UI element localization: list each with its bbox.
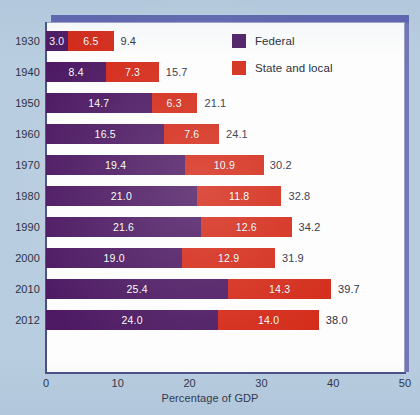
bar-segment-state-local: 11.8 — [197, 186, 282, 206]
stacked-bar: 21.011.8 — [46, 186, 282, 206]
x-tick-label: 40 — [327, 377, 339, 389]
stacked-bar: 8.47.3 — [46, 62, 159, 82]
bar-segment-state-local: 12.6 — [201, 217, 291, 237]
bar-segment-state-local: 7.6 — [164, 124, 219, 144]
stacked-bar: 19.012.9 — [46, 248, 275, 268]
x-tick-label: 30 — [255, 377, 267, 389]
year-label: 2000 — [0, 246, 40, 270]
bar-row: 19303.06.59.4 — [0, 29, 420, 53]
bar-segment-state-local: 14.0 — [218, 310, 319, 330]
bar-segment-state-local: 6.5 — [68, 31, 115, 51]
bar-total-label: 9.4 — [120, 31, 136, 51]
bar-segment-federal: 21.6 — [46, 217, 201, 237]
year-label: 1990 — [0, 215, 40, 239]
bar-total-label: 24.1 — [226, 124, 248, 144]
bar-segment-federal: 3.0 — [46, 31, 68, 51]
bar-row: 19408.47.315.7 — [0, 60, 420, 84]
bar-segment-federal: 8.4 — [46, 62, 106, 82]
bar-row: 201224.014.038.0 — [0, 308, 420, 332]
bar-segment-federal: 25.4 — [46, 279, 228, 299]
year-label: 1980 — [0, 184, 40, 208]
bar-total-label: 30.2 — [270, 155, 292, 175]
x-tick-label: 50 — [399, 377, 411, 389]
bar-row: 198021.011.832.8 — [0, 184, 420, 208]
bar-segment-federal: 16.5 — [46, 124, 164, 144]
bar-total-label: 31.9 — [282, 248, 304, 268]
bar-row: 196016.57.624.1 — [0, 122, 420, 146]
bar-total-label: 32.8 — [289, 186, 311, 206]
bar-total-label: 39.7 — [338, 279, 360, 299]
bar-row: 197019.410.930.2 — [0, 153, 420, 177]
x-tick-label: 20 — [183, 377, 195, 389]
year-label: 1970 — [0, 153, 40, 177]
bar-row: 199021.612.634.2 — [0, 215, 420, 239]
stacked-bar: 24.014.0 — [46, 310, 319, 330]
bar-total-label: 21.1 — [204, 93, 226, 113]
stacked-bar: 3.06.5 — [46, 31, 113, 51]
bar-segment-federal: 19.4 — [46, 155, 185, 175]
bar-total-label: 15.7 — [166, 62, 188, 82]
bar-row: 200019.012.931.9 — [0, 246, 420, 270]
chart-page: Federal State and local 19303.06.59.4194… — [0, 0, 420, 415]
x-axis-line — [45, 372, 406, 374]
x-tick-label: 0 — [43, 377, 49, 389]
stacked-bar: 25.414.3 — [46, 279, 331, 299]
stacked-bar: 21.612.6 — [46, 217, 292, 237]
bar-total-label: 34.2 — [299, 217, 321, 237]
year-label: 1960 — [0, 122, 40, 146]
stacked-bar: 19.410.9 — [46, 155, 263, 175]
year-label: 2012 — [0, 308, 40, 332]
bar-segment-state-local: 12.9 — [182, 248, 275, 268]
bar-segment-federal: 21.0 — [46, 186, 197, 206]
year-label: 1950 — [0, 91, 40, 115]
year-label: 1940 — [0, 60, 40, 84]
bar-segment-state-local: 6.3 — [152, 93, 197, 113]
bar-segment-federal: 24.0 — [46, 310, 218, 330]
bar-segment-state-local: 10.9 — [185, 155, 263, 175]
x-tick-label: 10 — [112, 377, 124, 389]
stacked-bar: 16.57.6 — [46, 124, 219, 144]
bar-segment-federal: 19.0 — [46, 248, 182, 268]
bar-segment-federal: 14.7 — [46, 93, 152, 113]
bar-segment-state-local: 14.3 — [228, 279, 331, 299]
bar-segment-state-local: 7.3 — [106, 62, 158, 82]
bar-row: 201025.414.339.7 — [0, 277, 420, 301]
year-label: 2010 — [0, 277, 40, 301]
bar-total-label: 38.0 — [326, 310, 348, 330]
stacked-bar: 14.76.3 — [46, 93, 197, 113]
year-label: 1930 — [0, 29, 40, 53]
bar-row: 195014.76.321.1 — [0, 91, 420, 115]
x-axis-title: Percentage of GDP — [0, 392, 420, 404]
